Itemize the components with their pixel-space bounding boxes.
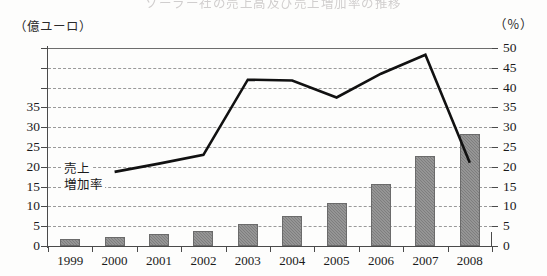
plot-area	[48, 48, 492, 246]
tick-left-45	[41, 68, 48, 69]
tick-right-45	[492, 68, 498, 69]
tick-x-0	[48, 246, 49, 252]
y-label-left-20: 20	[0, 160, 40, 174]
legend-label-sales: 売上	[62, 162, 92, 177]
chart-container: ソーラー社の売上高及び売上増加率の推移 （億ユーロ） （％） 051015202…	[0, 0, 547, 276]
tick-right-10	[492, 206, 498, 207]
tick-left-5	[41, 226, 48, 227]
y-label-right-30: 30	[503, 120, 517, 134]
x-label-2004: 2004	[270, 253, 314, 269]
tick-x-10	[492, 246, 493, 252]
y-label-right-25: 25	[503, 140, 517, 154]
y-label-left-35: 35	[0, 100, 40, 114]
tick-left-40	[41, 88, 48, 89]
tick-right-30	[492, 127, 498, 128]
y-label-left-15: 15	[0, 180, 40, 194]
y-label-right-5: 5	[503, 219, 510, 233]
y-label-left-30: 30	[0, 120, 40, 134]
y-label-right-20: 20	[503, 160, 517, 174]
tick-right-40	[492, 88, 498, 89]
tick-left-15	[41, 187, 48, 188]
x-label-2003: 2003	[226, 253, 270, 269]
tick-x-1	[92, 246, 93, 252]
y-label-left-5: 5	[0, 219, 40, 233]
tick-x-2	[137, 246, 138, 252]
tick-right-35	[492, 107, 498, 108]
tick-x-9	[448, 246, 449, 252]
tick-right-25	[492, 147, 498, 148]
y-label-right-45: 45	[503, 61, 517, 75]
y-label-left-25: 25	[0, 140, 40, 154]
y-label-right-0: 0	[503, 239, 510, 253]
x-label-2001: 2001	[137, 253, 181, 269]
right-axis-unit-label: （％）	[494, 14, 533, 33]
y-label-right-10: 10	[503, 199, 517, 213]
tick-x-8	[403, 246, 404, 252]
x-label-2005: 2005	[314, 253, 358, 269]
tick-x-4	[226, 246, 227, 252]
line-series	[48, 48, 492, 246]
tick-right-5	[492, 226, 498, 227]
tick-left-10	[41, 206, 48, 207]
tick-left-35	[41, 107, 48, 108]
chart-title: ソーラー社の売上高及び売上増加率の推移	[0, 0, 547, 12]
tick-right-20	[492, 167, 498, 168]
tick-x-6	[314, 246, 315, 252]
y-label-left-0: 0	[0, 239, 40, 253]
tick-left-50	[41, 48, 48, 49]
x-label-2002: 2002	[181, 253, 225, 269]
chart-title-strip: ソーラー社の売上高及び売上増加率の推移	[0, 0, 547, 13]
tick-left-0	[41, 246, 48, 247]
tick-x-7	[359, 246, 360, 252]
y-label-right-50: 50	[503, 41, 517, 55]
x-label-1999: 1999	[48, 253, 92, 269]
y-label-left-10: 10	[0, 199, 40, 213]
left-axis-unit-label: （億ユーロ）	[14, 16, 92, 35]
tick-left-25	[41, 147, 48, 148]
x-label-2006: 2006	[359, 253, 403, 269]
tick-right-15	[492, 187, 498, 188]
y-label-right-35: 35	[503, 100, 517, 114]
tick-right-50	[492, 48, 498, 49]
x-label-2007: 2007	[403, 253, 447, 269]
tick-left-20	[41, 167, 48, 168]
tick-x-3	[181, 246, 182, 252]
legend-label-growth-rate: 増加率	[62, 178, 105, 193]
y-label-right-40: 40	[503, 81, 517, 95]
x-label-2008: 2008	[448, 253, 492, 269]
growth-rate-line	[115, 55, 470, 172]
x-label-2000: 2000	[92, 253, 136, 269]
y-label-right-15: 15	[503, 180, 517, 194]
tick-left-30	[41, 127, 48, 128]
tick-x-5	[270, 246, 271, 252]
